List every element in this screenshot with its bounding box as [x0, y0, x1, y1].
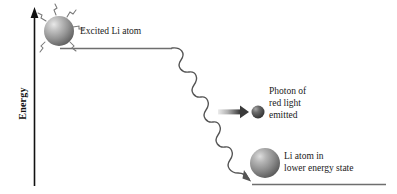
lower-state-lithium-atom — [250, 148, 280, 178]
photon-arrow-head — [240, 106, 249, 119]
excited-lithium-atom — [44, 16, 74, 46]
photon-wave-path — [172, 48, 251, 182]
excited-atom-label: Excited Li atom — [80, 25, 141, 37]
energy-axis-arrowhead — [31, 7, 39, 18]
emission-squiggle-icon — [38, 13, 46, 21]
lower-state-atom-label: Li atom in lower energy state — [284, 150, 353, 174]
photon-emission-arrow — [218, 106, 249, 119]
emission-squiggle-icon — [54, 4, 57, 15]
photon-arrow-shaft — [218, 109, 240, 114]
wave-arrowhead-fill — [243, 170, 252, 182]
emission-squiggle-icon — [67, 10, 76, 17]
energy-axis — [31, 7, 39, 186]
emission-squiggle-icon — [40, 42, 45, 52]
emission-squiggle-icon — [70, 42, 76, 51]
emitted-photon — [252, 106, 265, 119]
energy-emission-diagram: Energy Excited Li atom Photon of red lig… — [0, 0, 397, 194]
energy-axis-label: Energy — [17, 74, 28, 134]
photon-label: Photon of red light emitted — [269, 85, 306, 121]
